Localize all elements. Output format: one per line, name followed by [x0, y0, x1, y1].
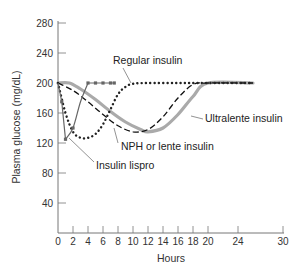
lispro-marker [113, 81, 116, 84]
y-tick-label: 120 [36, 138, 53, 149]
y-axis-title: Plasma glucose (mg/dL) [10, 70, 22, 183]
lispro-marker [101, 81, 104, 84]
leader-ultralente [191, 116, 203, 119]
x-axis-title: Hours [157, 252, 185, 264]
y-tick-label: 280 [36, 18, 53, 29]
series-ultralente [58, 82, 253, 132]
annotation-regular: Regular insulin [113, 54, 183, 66]
x-tick-label: 30 [277, 236, 289, 247]
lispro-marker [109, 81, 112, 84]
lispro-marker [86, 81, 89, 84]
lispro-marker [60, 100, 63, 103]
x-tick-label: 0 [55, 236, 61, 247]
leader-lispro [69, 138, 94, 162]
y-ticks: 4080120160200240280 [36, 18, 66, 209]
x-tick-label: 4 [85, 236, 91, 247]
x-tick-label: 16 [172, 236, 184, 247]
leader-nph [114, 128, 118, 143]
x-tick-label: 12 [142, 236, 154, 247]
y-tick-label: 40 [42, 198, 54, 209]
annotations: Regular insulin Ultralente insulin NPH o… [69, 54, 283, 171]
lispro-marker [94, 81, 97, 84]
x-tick-label: 14 [157, 236, 169, 247]
y-tick-label: 200 [36, 78, 53, 89]
x-tick-label: 10 [127, 236, 139, 247]
x-tick-label: 6 [100, 236, 106, 247]
x-ticks: 024681012141618202430 [55, 226, 289, 247]
x-tick-label: 18 [187, 236, 199, 247]
annotation-lispro: Insulin lispro [96, 159, 155, 171]
x-tick-label: 8 [115, 236, 121, 247]
x-tick-label: 2 [70, 236, 76, 247]
annotation-nph: NPH or lente insulin [121, 140, 214, 152]
x-tick-label: 24 [232, 236, 244, 247]
insulin-glucose-chart: 4080120160200240280 02468101214161820243… [0, 0, 302, 277]
x-tick-label: 20 [202, 236, 214, 247]
lispro-marker [64, 138, 67, 141]
y-tick-label: 80 [42, 168, 54, 179]
y-tick-label: 160 [36, 108, 53, 119]
leader-regular [123, 68, 131, 83]
series-nph-lente [58, 83, 253, 132]
y-tick-label: 240 [36, 48, 53, 59]
lispro-marker [71, 126, 74, 129]
annotation-ultralente: Ultralente insulin [205, 112, 283, 124]
